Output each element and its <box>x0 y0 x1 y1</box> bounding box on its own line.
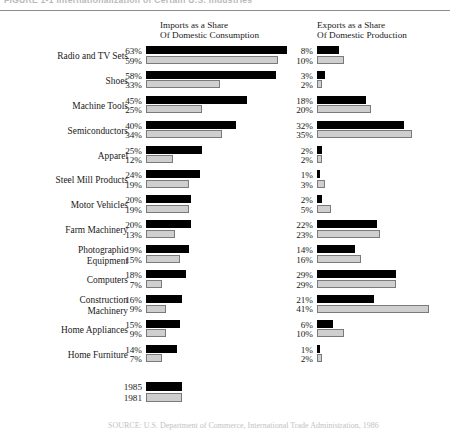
category-label: Shoes <box>0 76 128 87</box>
chart-legend: 1985 1981 <box>0 382 450 406</box>
imports-value-1981: 13% <box>120 231 142 240</box>
imports-bar-1985 <box>146 195 191 203</box>
imports-value-1981: 33% <box>120 81 142 90</box>
category-label: Construction Machinery <box>0 295 128 316</box>
imports-bar-1985 <box>146 170 200 178</box>
exports-value-1981: 41% <box>291 305 313 314</box>
exports-bar-1985 <box>317 320 333 328</box>
header-divider <box>0 10 450 11</box>
imports-bar-1981 <box>146 305 166 313</box>
exports-value-1981: 2% <box>291 355 313 364</box>
imports-value-1981: 9% <box>120 305 142 314</box>
category-label: Computers <box>0 275 128 286</box>
chart-row: Computers18%7%29%29% <box>0 270 450 295</box>
imports-bar-1981 <box>146 105 202 113</box>
imports-bar-1981 <box>146 130 222 138</box>
chart-row: Construction Machinery16%9%21%41% <box>0 295 450 320</box>
imports-value-1981: 19% <box>120 206 142 215</box>
imports-value-1981: 12% <box>120 156 142 165</box>
exports-bar-1981 <box>317 205 331 213</box>
exports-value-1981: 23% <box>291 231 313 240</box>
exports-bar-1981 <box>317 130 412 138</box>
exports-bar-1985 <box>317 270 396 278</box>
category-label: Machine Tools <box>0 101 128 112</box>
imports-bar-1985 <box>146 220 191 228</box>
exports-value-1981: 20% <box>291 106 313 115</box>
exports-bar-1985 <box>317 295 374 303</box>
exports-bar-1981 <box>317 180 325 188</box>
category-label: Apparel <box>0 151 128 162</box>
exports-value-1981: 29% <box>291 281 313 290</box>
imports-bar-1981 <box>146 329 166 337</box>
exports-bar-1985 <box>317 71 325 79</box>
imports-bar-1985 <box>146 146 202 154</box>
figure-container: FIGURE 1-1 Internationalization of Certa… <box>0 0 450 430</box>
imports-bar-1981 <box>146 354 162 362</box>
exports-value-1981: 3% <box>291 181 313 190</box>
chart-row: Machine Tools45%25%18%20% <box>0 96 450 121</box>
chart-rows: Radio and TV Sets63%59%8%10%Shoes58%33%3… <box>0 46 450 370</box>
legend-label-1985: 1985 <box>118 383 142 392</box>
category-label: Semiconductors <box>0 126 128 137</box>
category-label: Photographic Equipment <box>0 245 128 266</box>
imports-value-1981: 25% <box>120 106 142 115</box>
imports-bar-1985 <box>146 345 177 353</box>
imports-column-heading: Imports as a Share Of Domestic Consumpti… <box>160 20 259 41</box>
imports-value-1981: 59% <box>120 57 142 66</box>
imports-value-1981: 7% <box>120 281 142 290</box>
imports-value-1981: 34% <box>120 131 142 140</box>
exports-value-1981: 10% <box>291 57 313 66</box>
exports-value-1981: 2% <box>291 81 313 90</box>
exports-bar-1985 <box>317 220 377 228</box>
exports-bar-1981 <box>317 155 322 163</box>
chart-row: Home Appliances15%9%6%10% <box>0 320 450 345</box>
imports-value-1981: 9% <box>120 330 142 339</box>
legend-label-1981: 1981 <box>118 394 142 403</box>
category-label: Home Appliances <box>0 325 128 336</box>
exports-bar-1981 <box>317 105 371 113</box>
category-label: Steel Mill Products <box>0 175 128 186</box>
imports-bar-1985 <box>146 121 236 129</box>
exports-bar-1981 <box>317 80 322 88</box>
imports-bar-1985 <box>146 46 287 54</box>
chart-row: Motor Vehicles20%19%2%5% <box>0 195 450 220</box>
legend-swatch-1981 <box>146 393 182 402</box>
exports-bar-1985 <box>317 170 320 178</box>
imports-bar-1985 <box>146 270 186 278</box>
exports-bar-1985 <box>317 121 404 129</box>
exports-bar-1981 <box>317 305 429 313</box>
category-label: Motor Vehicles <box>0 200 128 211</box>
imports-bar-1981 <box>146 255 180 263</box>
imports-bar-1981 <box>146 155 173 163</box>
exports-bar-1985 <box>317 146 322 154</box>
exports-value-1981: 10% <box>291 330 313 339</box>
exports-value-1981: 5% <box>291 206 313 215</box>
imports-value-1985: 63% <box>120 47 142 56</box>
imports-bar-1985 <box>146 71 276 79</box>
legend-swatch-1985 <box>146 382 182 391</box>
chart-row: Farm Machinery20%13%22%23% <box>0 220 450 245</box>
imports-bar-1981 <box>146 180 189 188</box>
figure-caption: FIGURE 1-1 Internationalization of Certa… <box>4 0 252 5</box>
category-label: Radio and TV Sets <box>0 51 128 62</box>
imports-value-1981: 19% <box>120 181 142 190</box>
imports-bar-1981 <box>146 280 162 288</box>
chart-row: Radio and TV Sets63%59%8%10% <box>0 46 450 71</box>
exports-value-1981: 35% <box>291 131 313 140</box>
source-note: SOURCE: U.S. Department of Commerce, Int… <box>108 421 379 430</box>
chart-row: Steel Mill Products24%19%1%3% <box>0 170 450 195</box>
exports-bar-1985 <box>317 46 339 54</box>
exports-bar-1981 <box>317 280 396 288</box>
imports-value-1981: 15% <box>120 256 142 265</box>
exports-value-1985: 29% <box>291 271 313 280</box>
exports-bar-1985 <box>317 195 322 203</box>
imports-bar-1985 <box>146 96 247 104</box>
chart-row: Photographic Equipment19%15%14%16% <box>0 245 450 270</box>
imports-bar-1981 <box>146 205 189 213</box>
chart-row: Apparel25%12%2%2% <box>0 146 450 171</box>
imports-value-1985: 18% <box>120 271 142 280</box>
exports-bar-1985 <box>317 345 320 353</box>
exports-bar-1981 <box>317 329 344 337</box>
exports-bar-1981 <box>317 354 322 362</box>
imports-bar-1981 <box>146 80 220 88</box>
